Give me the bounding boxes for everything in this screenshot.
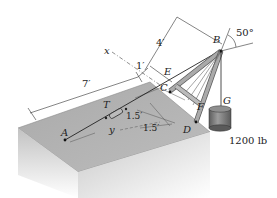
label-4ft: 4′ <box>156 37 165 48</box>
label-angle: 50° <box>236 27 254 38</box>
base-block <box>18 82 210 198</box>
point-D <box>195 121 198 124</box>
label-D: D <box>182 124 191 135</box>
label-1-5ft-a: 1.5′ <box>126 111 142 121</box>
weight-G <box>209 106 231 131</box>
label-1ft: 1′ <box>136 60 145 71</box>
label-x-axis: x <box>104 45 110 56</box>
structure-diagram: B 50° E C F D G A T x y 7′ 1′ 4′ 1.5′ 1.… <box>0 0 277 198</box>
label-A: A <box>60 127 68 138</box>
label-load: 1200 lb <box>229 135 267 146</box>
label-y-axis: y <box>108 124 115 135</box>
label-7ft: 7′ <box>82 78 91 89</box>
label-B: B <box>212 34 220 45</box>
dimension-4ft <box>138 17 222 82</box>
label-E: E <box>163 66 172 77</box>
point-A <box>64 139 67 142</box>
point-C <box>169 91 172 94</box>
label-C: C <box>160 82 168 93</box>
label-1-5ft-b: 1.5′ <box>143 123 159 133</box>
label-G: G <box>223 95 231 106</box>
label-F: F <box>196 101 205 112</box>
